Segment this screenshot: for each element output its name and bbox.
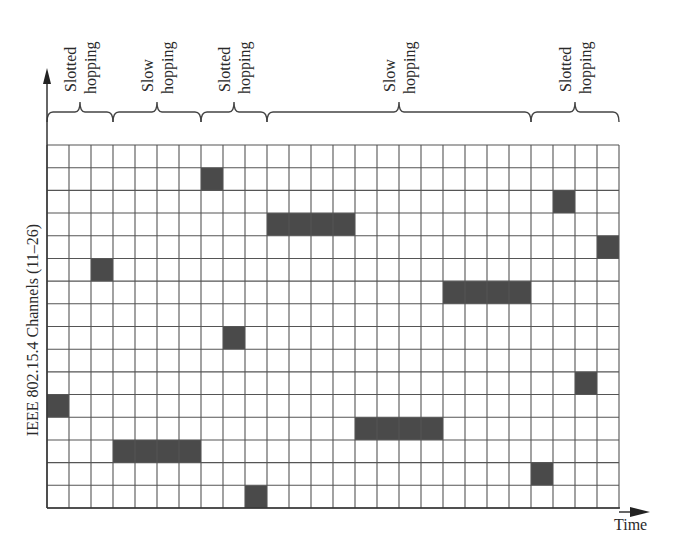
segment-braces (47, 102, 619, 122)
segment-label-line2: hopping (236, 42, 254, 94)
segment-brace (201, 102, 267, 122)
occupied-cell (223, 327, 245, 350)
occupied-cell (553, 190, 575, 213)
segment-brace (113, 102, 201, 122)
occupied-cell (531, 463, 553, 486)
segment-label-line1: Slotted (557, 47, 574, 92)
segment-brace (531, 102, 619, 122)
segment-label-line1: Slow (381, 59, 398, 92)
y-axis-arrow-icon (43, 68, 51, 84)
segment-label-line1: Slow (139, 59, 156, 92)
occupied-cell (575, 372, 597, 395)
x-axis-label: Time (614, 516, 647, 533)
occupied-cell (201, 168, 223, 191)
segment-label-line2: hopping (82, 42, 100, 94)
segment-labels: SlottedhoppingSlowhoppingSlottedhoppingS… (62, 42, 595, 94)
segment-label-line1: Slotted (62, 47, 79, 92)
segment-label-line1: Slotted (216, 47, 233, 92)
occupied-cell (245, 485, 267, 508)
y-axis-label: IEEE 802.15.4 Channels (11–26) (24, 224, 42, 436)
segment-brace (47, 102, 113, 122)
segment-label-line2: hopping (401, 42, 419, 94)
occupied-cell (91, 258, 113, 281)
occupied-cell (47, 395, 69, 418)
hopping-diagram: SlottedhoppingSlowhoppingSlottedhoppingS… (0, 0, 676, 550)
segment-label-line2: hopping (577, 42, 595, 94)
segment-label-line2: hopping (159, 42, 177, 94)
segment-brace (267, 102, 531, 122)
occupied-cell (597, 236, 619, 259)
